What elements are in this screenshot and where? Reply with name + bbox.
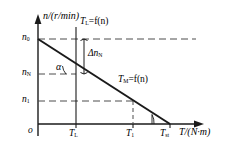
speed-drop-label: ΔnN [88, 49, 103, 59]
guide-lines [38, 39, 196, 124]
motor-characteristic-line [38, 39, 170, 124]
x-tick-label-T1: T1 [126, 129, 134, 139]
y-axis [35, 14, 42, 136]
angle-tst-marker [152, 115, 154, 125]
x-tick-label-TL: TL [69, 129, 78, 139]
motor-characteristic-label: TM=f(n) [118, 75, 148, 85]
y-axis-title: n/(r/min) [43, 11, 79, 21]
x-tick-label-Tst: Tst [160, 129, 169, 139]
angle-alpha-label: α [56, 62, 61, 72]
x-axis-title: T/(N·m) [179, 127, 210, 137]
mechanical-characteristic-figure: n/(r/min) T/(N·m) o n0 nN n1 TL T1 Tst T… [0, 0, 233, 153]
angle-alpha-marker [63, 66, 67, 74]
speed-drop-marker [81, 39, 88, 74]
y-tick-label-n0: n0 [22, 33, 30, 43]
y-tick-label-n1: n1 [22, 95, 30, 105]
origin-label: o [28, 126, 33, 136]
load-characteristic-label: TL=f(n) [80, 17, 108, 27]
y-tick-label-nN: nN [22, 68, 31, 78]
